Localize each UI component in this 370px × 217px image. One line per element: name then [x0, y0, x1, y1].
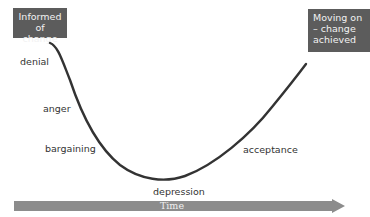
stage-label-depression: depression: [153, 186, 205, 197]
stage-label-denial: denial: [20, 56, 49, 67]
stage-label-bargaining: bargaining: [45, 143, 96, 154]
stage-label-acceptance: acceptance: [243, 144, 298, 155]
stage-label-anger: anger: [43, 103, 71, 114]
time-axis-label: Time: [160, 200, 184, 211]
